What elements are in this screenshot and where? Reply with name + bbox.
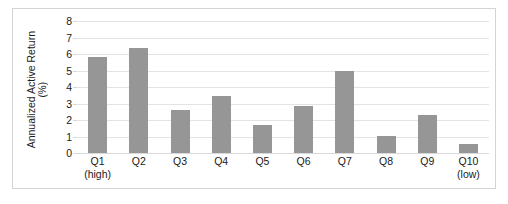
- bar-q5[interactable]: [253, 125, 272, 153]
- bar-slot-q2: [118, 21, 159, 153]
- bar-slot-q3: [159, 21, 200, 153]
- bar-slot-q4: [201, 21, 242, 153]
- x-axis-label-main: Q8: [379, 155, 393, 167]
- x-axis-tick-labels: Q1(high)Q2Q3Q4Q5Q6Q7Q8Q9Q10(low): [77, 155, 489, 181]
- y-axis-tick-3: 3: [66, 98, 72, 109]
- x-axis-label-main: Q3: [173, 155, 187, 167]
- x-axis-label-main: Q4: [214, 155, 228, 167]
- x-axis-label-q9: Q9: [407, 155, 448, 181]
- tick-mark-0: [73, 153, 77, 154]
- bar-q8[interactable]: [377, 136, 396, 153]
- y-axis-title-unit: (%): [38, 82, 48, 98]
- bar-q3[interactable]: [171, 110, 190, 153]
- bar-slot-q8: [365, 21, 406, 153]
- bar-series: [77, 21, 489, 153]
- bar-q4[interactable]: [212, 96, 231, 153]
- x-axis-label-q5: Q5: [242, 155, 283, 181]
- y-axis-tick-5: 5: [66, 65, 72, 76]
- x-axis-sublabel: (high): [77, 168, 118, 181]
- bar-q1[interactable]: [88, 57, 107, 153]
- x-axis-label-q1: Q1(high): [77, 155, 118, 181]
- bar-q7[interactable]: [335, 71, 354, 154]
- bar-q6[interactable]: [294, 106, 313, 153]
- plot-wrapper: 876543210 Q1(high)Q2Q3Q4Q5Q6Q7Q8Q9Q10(lo…: [56, 13, 491, 184]
- x-axis-sublabel: (low): [448, 168, 489, 181]
- x-axis-label-q3: Q3: [159, 155, 200, 181]
- bar-slot-q5: [242, 21, 283, 153]
- bar-slot-q6: [283, 21, 324, 153]
- x-axis-label-q4: Q4: [201, 155, 242, 181]
- x-axis-label-main: Q1: [91, 155, 105, 167]
- axis-baseline: [77, 153, 489, 154]
- y-axis-tick-8: 8: [66, 16, 72, 27]
- y-axis-title: Annualized Active Return (%): [19, 15, 55, 165]
- x-axis-label-main: Q9: [420, 155, 434, 167]
- bar-q10[interactable]: [459, 144, 478, 153]
- bar-slot-q7: [324, 21, 365, 153]
- bar-q9[interactable]: [418, 115, 437, 153]
- x-axis-label-q7: Q7: [324, 155, 365, 181]
- bar-slot-q9: [407, 21, 448, 153]
- x-axis-label-q10: Q10(low): [448, 155, 489, 181]
- y-axis-tick-0: 0: [66, 148, 72, 159]
- y-axis-tick-2: 2: [66, 115, 72, 126]
- y-axis-tick-1: 1: [66, 131, 72, 142]
- bar-slot-q1: [77, 21, 118, 153]
- y-axis-tick-labels: 876543210: [56, 21, 72, 153]
- x-axis-label-main: Q10: [459, 155, 479, 167]
- plot-area: [77, 21, 489, 153]
- x-axis-label-main: Q5: [255, 155, 269, 167]
- x-axis-label-main: Q7: [338, 155, 352, 167]
- x-axis-label-q2: Q2: [118, 155, 159, 181]
- x-axis-label-main: Q6: [297, 155, 311, 167]
- y-axis-tick-6: 6: [66, 49, 72, 60]
- x-axis-label-q8: Q8: [365, 155, 406, 181]
- x-axis-label-q6: Q6: [283, 155, 324, 181]
- bar-q2[interactable]: [129, 48, 148, 153]
- x-axis-label-main: Q2: [132, 155, 146, 167]
- y-axis-title-main: Annualized Active Return: [26, 31, 37, 148]
- bar-slot-q10: [448, 21, 489, 153]
- chart-container: Annualized Active Return (%) 876543210 Q…: [12, 8, 496, 189]
- y-axis-tick-4: 4: [66, 82, 72, 93]
- y-axis-tick-7: 7: [66, 32, 72, 43]
